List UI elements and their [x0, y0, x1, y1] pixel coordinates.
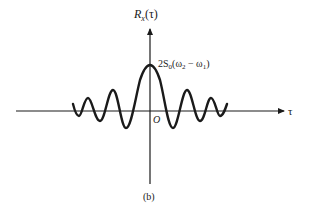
peak-value-label: 2S0(ω2 − ω1): [158, 58, 210, 71]
origin-label: O: [153, 114, 160, 125]
x-axis-label: τ: [288, 105, 293, 117]
y-axis-label: Rx(τ): [133, 7, 158, 23]
figure-caption: (b): [143, 191, 155, 203]
autocorrelation-figure: Rx(τ) 2S0(ω2 − ω1) τ O (b): [0, 0, 315, 204]
